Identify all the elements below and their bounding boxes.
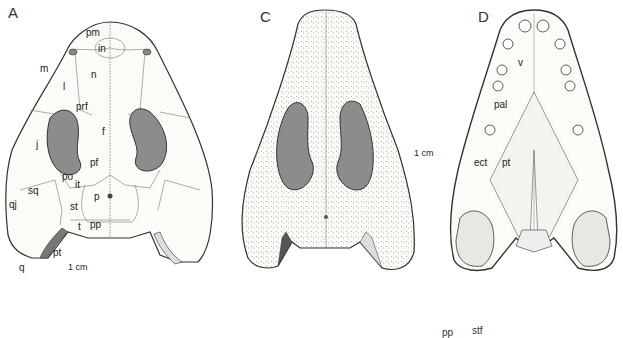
label-pt-palatal: pt: [502, 158, 510, 168]
skull-palatal-drawing: [430, 0, 623, 280]
skull-dorsal-stippled-drawing: [220, 0, 440, 280]
label-pt: pt: [53, 248, 61, 258]
label-t: t: [78, 222, 81, 232]
label-q: q: [19, 263, 25, 273]
cropped-label-pp: pp: [442, 327, 453, 338]
label-prf: prf: [76, 102, 88, 112]
panel-c: C 1 cm: [220, 0, 440, 280]
label-it: it: [75, 180, 80, 190]
label-v: v: [518, 58, 523, 68]
label-p: p: [94, 192, 100, 202]
label-l: l: [63, 82, 65, 92]
label-sq: sq: [28, 186, 39, 196]
panel-a: A pm in m n l prf f j pf po it sq: [0, 0, 220, 280]
label-st: st: [70, 202, 78, 212]
label-j: j: [36, 140, 38, 150]
label-ect: ect: [474, 158, 487, 168]
skull-dorsal-labelled-drawing: [0, 0, 220, 280]
scale-bar-a: 1 cm: [68, 262, 88, 272]
label-pm: pm: [86, 28, 100, 38]
label-po: po: [62, 172, 73, 182]
label-pf: pf: [90, 158, 98, 168]
cropped-label-stf: stf: [472, 325, 483, 336]
label-pp: pp: [90, 220, 101, 230]
label-f: f: [102, 127, 105, 137]
label-n: n: [91, 70, 97, 80]
label-pal: pal: [494, 100, 507, 110]
label-qj: qj: [9, 200, 17, 210]
panel-d: D v pal ect pt: [430, 0, 623, 280]
label-in: in: [98, 44, 106, 54]
label-m: m: [40, 64, 48, 74]
